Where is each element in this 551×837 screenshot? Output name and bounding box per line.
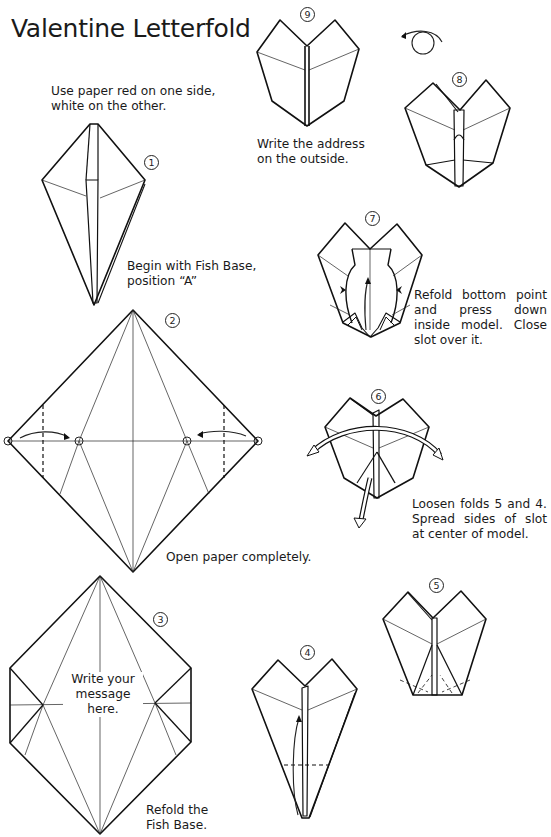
- intro-note: Use paper red on one side, white on the …: [51, 84, 231, 114]
- page-title: Valentine Letterfold: [11, 14, 251, 43]
- step-1-number: 1: [144, 155, 159, 170]
- step-4-number: 4: [300, 645, 315, 660]
- step-3-inner-text: Write your message here.: [63, 672, 143, 717]
- step-9-number: 9: [300, 7, 315, 22]
- step-1-caption: Begin with Fish Base, position “A”: [127, 259, 257, 289]
- step-7-number: 7: [365, 211, 380, 226]
- step-2-number: 2: [165, 313, 180, 328]
- step-3-caption: Refold the Fish Base.: [146, 803, 216, 833]
- step-9-caption: Write the address on the outside.: [257, 137, 377, 167]
- step-2-caption: Open paper completely.: [166, 550, 326, 565]
- step-6-caption: Loosen folds 5 and 4. Spread sides of sl…: [412, 497, 547, 542]
- step-7-caption: Refold bottom point and press down insid…: [414, 288, 547, 348]
- step-5-number: 5: [429, 578, 444, 593]
- step-6-number: 6: [371, 389, 386, 404]
- step-8-number: 8: [452, 72, 467, 87]
- step-3-number: 3: [153, 612, 168, 627]
- instruction-page: Valentine Letterfold Use paper red on on…: [0, 0, 551, 837]
